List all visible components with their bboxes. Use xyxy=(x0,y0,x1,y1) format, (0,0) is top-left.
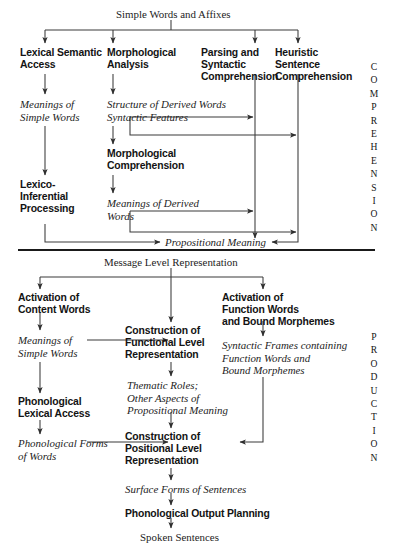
node-lexical-semantic-access: Lexical Semantic Access xyxy=(20,47,102,71)
node-meanings-of-simple-words-production: Meanings of Simple Words xyxy=(18,334,77,359)
section-label-letter: M xyxy=(366,87,382,100)
section-label-letter: N xyxy=(366,167,382,180)
node-propositional-meaning: Propositional Meaning xyxy=(165,236,266,249)
node-simple-words-and-affixes: Simple Words and Affixes xyxy=(116,8,231,21)
section-label-letter: O xyxy=(366,437,382,450)
node-spoken-sentences: Spoken Sentences xyxy=(140,531,219,543)
section-label-letter: P xyxy=(366,330,382,343)
wire-heuristic-to-propositional xyxy=(272,74,298,242)
section-label-letter: N xyxy=(366,451,382,464)
section-divider xyxy=(18,249,375,251)
section-label-letter: N xyxy=(366,221,382,234)
node-heuristic-sentence-comprehension: Heuristic Sentence Comprehension xyxy=(275,47,352,83)
node-lexico-inferential-processing: Lexico- Inferential Processing xyxy=(20,179,75,215)
node-phonological-lexical-access: Phonological Lexical Access xyxy=(18,396,90,420)
section-label-letter: I xyxy=(366,424,382,437)
section-label-letter: D xyxy=(366,370,382,383)
section-label-letter: O xyxy=(366,357,382,370)
section-label-letter: U xyxy=(366,384,382,397)
section-label-letter: C xyxy=(366,60,382,73)
section-label-letter: C xyxy=(366,397,382,410)
node-phonological-output-planning: Phonological Output Planning xyxy=(125,508,270,520)
node-meanings-of-simple-words: Meanings of Simple Words xyxy=(20,98,79,123)
node-structure-of-derived-words: Structure of Derived Words Syntactic Fea… xyxy=(107,98,226,123)
flowchart-diagram: Simple Words and Affixes Lexical Semanti… xyxy=(0,0,401,543)
section-label-letter: O xyxy=(366,73,382,86)
section-label-letter: H xyxy=(366,140,382,153)
section-label-letter: R xyxy=(366,114,382,127)
node-meanings-of-derived-words: Meanings of Derived Words xyxy=(107,197,199,222)
node-morphological-analysis: Morphological Analysis xyxy=(107,47,176,71)
node-message-level-representation: Message Level Representation xyxy=(104,256,238,269)
node-activation-of-function-words: Activation of Function Words and Bound M… xyxy=(222,292,335,328)
node-construction-of-functional-level-representation: Construction of Functional Level Represe… xyxy=(125,325,205,361)
node-thematic-roles: Thematic Roles; Other Aspects of Proposi… xyxy=(127,379,228,417)
node-syntactic-frames: Syntactic Frames containing Function Wor… xyxy=(222,339,347,377)
section-label-comprehension: COMPREHENSION xyxy=(366,60,382,234)
section-label-letter: T xyxy=(366,410,382,423)
node-parsing-and-syntactic-comprehension: Parsing and Syntactic Comprehension xyxy=(201,47,278,83)
node-surface-forms-of-sentences: Surface Forms of Sentences xyxy=(125,483,246,496)
section-label-letter: R xyxy=(366,343,382,356)
section-label-letter: E xyxy=(366,127,382,140)
node-activation-of-content-words: Activation of Content Words xyxy=(18,292,90,316)
section-label-production: PRODUCTION xyxy=(366,330,382,464)
section-label-letter: P xyxy=(366,100,382,113)
node-morphological-comprehension: Morphological Comprehension xyxy=(107,148,184,172)
wire-syntactic-frames-to-positional xyxy=(240,377,263,442)
node-phonological-forms-of-words: Phonological Forms of Words xyxy=(18,437,108,462)
section-label-letter: S xyxy=(366,181,382,194)
section-label-letter: E xyxy=(366,154,382,167)
section-label-letter: O xyxy=(366,207,382,220)
wire-lexico-to-propositional xyxy=(45,224,160,242)
node-construction-of-positional-level-representation: Construction of Positional Level Represe… xyxy=(125,431,202,467)
section-label-letter: I xyxy=(366,194,382,207)
